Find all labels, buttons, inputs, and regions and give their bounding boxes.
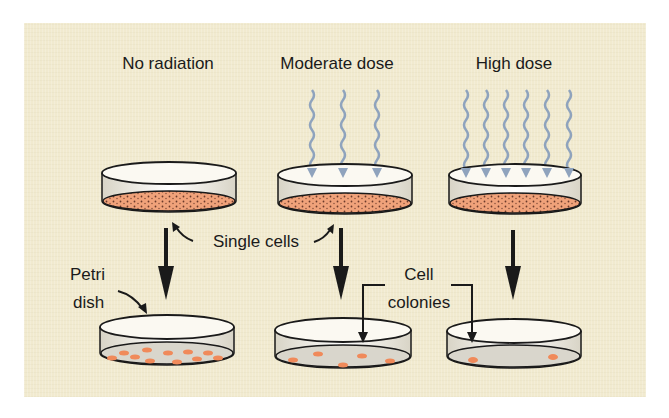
petri-dish-arrow <box>118 291 143 309</box>
label-petri: Petri <box>70 265 105 284</box>
petri-dish-bottom-high <box>447 319 581 368</box>
label-colonies: colonies <box>388 293 450 312</box>
label-single-cells: Single cells <box>213 232 299 251</box>
label-dish: dish <box>73 293 104 312</box>
single-cells-arrow-left <box>176 227 193 241</box>
label-cell: Cell <box>404 265 433 284</box>
petri-dish-bottom-no-radiation <box>100 315 234 365</box>
petri-dish-bottom-moderate <box>275 318 411 368</box>
radiation-colony-diagram: No radiation Moderate dose High dose <box>0 0 669 418</box>
single-cells-arrow-right <box>314 230 330 242</box>
petri-dish-top-no-radiation <box>102 162 236 212</box>
heading-high-dose: High dose <box>476 54 553 73</box>
heading-moderate-dose: Moderate dose <box>280 54 393 73</box>
heading-no-radiation: No radiation <box>122 54 214 73</box>
